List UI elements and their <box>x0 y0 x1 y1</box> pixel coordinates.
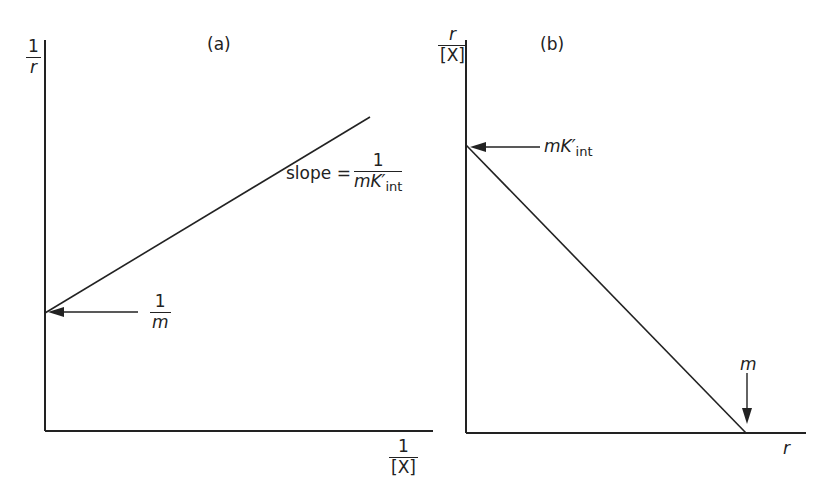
panel-b-axes <box>466 40 806 433</box>
panel-a-y-axis-label: 1 r <box>26 38 41 77</box>
x-axis-denominator: [X] <box>389 459 418 477</box>
diagram-canvas <box>0 0 824 496</box>
intercept-numerator: 1 <box>153 293 168 311</box>
panel-b-plot-line <box>466 145 746 433</box>
panel-b-y-intercept-label: mK′int <box>544 138 593 158</box>
panel-b-x-intercept-arrow <box>742 373 752 424</box>
y-intercept-main: mK′ <box>544 136 576 156</box>
x-axis-numerator: 1 <box>396 438 411 456</box>
panel-a-x-axis-label: 1 [X] <box>389 438 418 477</box>
panel-a-plot-line <box>45 117 370 313</box>
panel-b-x-axis-label: r <box>783 440 790 457</box>
panel-b-label: (b) <box>540 36 564 53</box>
intercept-denominator: m <box>150 314 171 332</box>
slope-fraction: 1 mK′int <box>354 152 403 193</box>
y-axis-denominator: r <box>28 59 39 77</box>
panel-a-axes <box>45 40 433 431</box>
slope-numerator: 1 <box>373 152 384 170</box>
y-axis-denominator: [X] <box>438 47 467 65</box>
slope-denominator-sub: int <box>385 179 402 194</box>
panel-a-label: (a) <box>207 36 231 53</box>
y-axis-numerator: 1 <box>26 38 41 56</box>
panel-b-y-intercept-arrow <box>470 142 540 152</box>
panel-a-intercept-label: 1 m <box>150 293 171 332</box>
y-axis-numerator: r <box>447 26 458 44</box>
slope-prefix: slope = <box>286 163 351 183</box>
y-intercept-sub: int <box>576 144 593 159</box>
panel-b-y-axis-label: r [X] <box>438 26 467 65</box>
panel-b-x-intercept-label: m <box>740 356 757 373</box>
panel-a-slope-annotation: slope = 1 mK′int <box>286 152 402 193</box>
slope-denominator: mK′ <box>354 171 386 191</box>
panel-a-intercept-arrow <box>48 307 138 317</box>
